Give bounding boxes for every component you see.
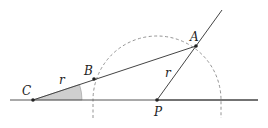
label-r-cb: r bbox=[59, 73, 66, 87]
line-pa bbox=[157, 10, 222, 100]
point-p bbox=[155, 98, 159, 102]
label-p: P bbox=[153, 105, 163, 119]
line-cba bbox=[33, 46, 196, 100]
point-c bbox=[31, 98, 35, 102]
point-a bbox=[194, 44, 198, 48]
label-r-pa: r bbox=[165, 66, 172, 80]
label-a: A bbox=[189, 30, 199, 44]
geometry-diagram: C B A P r r bbox=[0, 0, 268, 128]
label-b: B bbox=[83, 64, 93, 78]
label-c: C bbox=[22, 84, 31, 98]
